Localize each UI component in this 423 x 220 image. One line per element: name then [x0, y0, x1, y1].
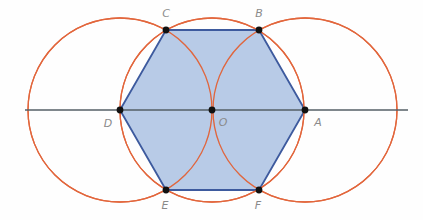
label-b: B — [255, 7, 263, 20]
point-d — [117, 107, 124, 114]
label-d: D — [104, 117, 112, 130]
point-a — [302, 107, 309, 114]
point-b — [256, 27, 263, 34]
label-o: O — [219, 116, 228, 129]
label-f: F — [255, 199, 262, 212]
geometry-canvas: A B C D E F O — [0, 0, 423, 220]
point-f — [256, 187, 263, 194]
point-e — [163, 187, 170, 194]
label-e: E — [162, 199, 169, 212]
label-a: A — [313, 116, 322, 129]
point-c — [163, 27, 170, 34]
point-o — [209, 107, 216, 114]
label-c: C — [162, 7, 170, 20]
geometry-figure: A B C D E F O — [0, 0, 423, 220]
